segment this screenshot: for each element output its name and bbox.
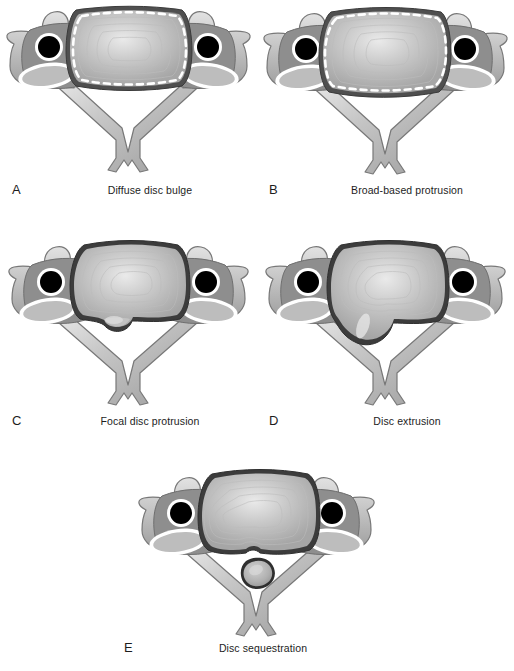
left-transverse-foramen-d: [294, 268, 322, 296]
right-transverse-foramen-e: [318, 499, 346, 527]
panel-broad-based-protrusion: B Broad-based protrusion: [257, 0, 514, 211]
vertebra-illustration-c: [0, 231, 257, 411]
intervertebral-disc-c: [70, 241, 190, 332]
left-transverse-foramen-c: [37, 268, 65, 296]
vertebra-illustration-e: [128, 460, 385, 640]
left-transverse-foramen-b: [292, 35, 320, 63]
right-transverse-foramen-d: [449, 268, 477, 296]
panel-label-a: Diffuse disc bulge: [55, 184, 245, 196]
panel-letter-d: D: [269, 413, 279, 428]
right-transverse-foramen-c: [192, 268, 220, 296]
caption-c: C Focal disc protrusion: [0, 413, 257, 435]
left-transverse-foramen-a: [35, 33, 63, 61]
panel-letter-b: B: [269, 182, 278, 197]
caption-e: E Disc sequestration: [128, 640, 385, 662]
panel-label-c: Focal disc protrusion: [55, 415, 245, 427]
panel-disc-extrusion: D Disc extrusion: [257, 231, 514, 442]
intervertebral-disc-e: [198, 470, 320, 555]
panel-disc-sequestration: E Disc sequestration: [128, 460, 385, 671]
right-transverse-foramen-b: [451, 35, 479, 63]
panel-label-d: Disc extrusion: [312, 415, 502, 427]
intervertebral-disc-a: [66, 6, 192, 90]
panel-letter-c: C: [12, 413, 22, 428]
vertebra-illustration-a: [0, 0, 257, 180]
vertebra-illustration-b: [257, 0, 514, 180]
panel-letter-e: E: [124, 640, 133, 655]
caption-d: D Disc extrusion: [257, 413, 514, 435]
panel-label-b: Broad-based protrusion: [312, 184, 502, 196]
panel-focal-disc-protrusion: C Focal disc protrusion: [0, 231, 257, 442]
intervertebral-disc-b: [319, 8, 451, 98]
left-transverse-foramen-e: [167, 499, 195, 527]
panel-diffuse-disc-bulge: A Diffuse disc bulge: [0, 0, 257, 211]
panel-label-e: Disc sequestration: [168, 642, 358, 654]
panel-letter-a: A: [12, 182, 21, 197]
caption-b: B Broad-based protrusion: [257, 182, 514, 204]
right-transverse-foramen-a: [194, 33, 222, 61]
figure-root: A Diffuse disc bulge: [0, 0, 514, 671]
sequestered-free-fragment-e: [241, 558, 275, 589]
caption-a: A Diffuse disc bulge: [0, 182, 257, 204]
vertebra-illustration-d: [257, 231, 514, 411]
